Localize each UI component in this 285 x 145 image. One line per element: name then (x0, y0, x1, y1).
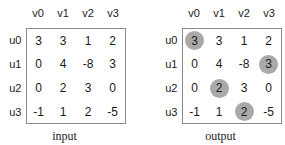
matrix-figure: v0 v1 v2 v3 u0 3 3 1 2 u1 0 4 -8 3 u2 0 … (0, 0, 285, 145)
cell-value: 0 (191, 58, 198, 70)
output-cell-u2-v2: 3 (232, 76, 257, 100)
input-cell-u3-v0: -1 (26, 100, 51, 124)
cell-value: 0 (35, 82, 42, 94)
input-cell-u3-v1: 1 (51, 100, 76, 124)
input-cell-u1-v1: 4 (51, 52, 76, 76)
column-header-v2: v2 (76, 4, 101, 22)
cell-value: 1 (60, 106, 67, 118)
cell-value: 0 (265, 82, 272, 94)
input-cell-u0-v2: 1 (76, 28, 101, 52)
output-cell-u3-v2: 2 (232, 100, 257, 124)
cell-value: 3 (241, 82, 248, 94)
column-header-v1: v1 (51, 4, 76, 22)
cell-value: 2 (60, 82, 67, 94)
column-header-v3: v3 (101, 4, 126, 22)
input-caption: input (52, 130, 77, 142)
input-cell-u0-v3: 2 (101, 28, 126, 52)
output-caption: output (205, 130, 236, 142)
cell-value: -8 (83, 58, 94, 70)
cell-value: -5 (107, 106, 118, 118)
corner-spacer (160, 4, 182, 22)
output-cell-u0-v0: 3 (182, 28, 207, 52)
cell-value: 3 (85, 82, 92, 94)
input-cell-u2-v2: 3 (76, 76, 101, 100)
cell-value: 3 (216, 35, 223, 47)
cell-value: -8 (239, 58, 250, 70)
cell-value: -1 (33, 106, 44, 118)
cell-value: 0 (35, 58, 42, 70)
row-label-u3: u3 (4, 100, 26, 124)
cell-value: 1 (216, 106, 223, 118)
column-header-v2: v2 (232, 4, 257, 22)
cell-value: 0 (191, 82, 198, 94)
column-header-v0: v0 (182, 4, 207, 22)
output-cell-u0-v1: 3 (207, 28, 232, 52)
output-cell-u1-v0: 0 (182, 52, 207, 76)
output-matrix-block: v0 v1 v2 v3 u0 3 3 1 2 u1 0 4 -8 3 u2 0 … (160, 4, 282, 142)
cell-value: 3 (35, 35, 42, 47)
cell-value: 3 (265, 58, 272, 70)
input-cell-u2-v1: 2 (51, 76, 76, 100)
column-header-v3: v3 (257, 4, 282, 22)
column-header-v0: v0 (26, 4, 51, 22)
input-cell-u1-v2: -8 (76, 52, 101, 76)
output-cell-u0-v3: 2 (257, 28, 282, 52)
output-cell-u3-v0: -1 (182, 100, 207, 124)
input-matrix-grid: v0 v1 v2 v3 u0 3 3 1 2 u1 0 4 -8 3 u2 0 … (4, 4, 126, 124)
output-cell-u3-v1: 1 (207, 100, 232, 124)
output-cell-u2-v3: 0 (257, 76, 282, 100)
output-matrix-grid: v0 v1 v2 v3 u0 3 3 1 2 u1 0 4 -8 3 u2 0 … (160, 4, 282, 124)
input-cell-u0-v0: 3 (26, 28, 51, 52)
cell-value: -5 (263, 106, 274, 118)
output-cell-u1-v1: 4 (207, 52, 232, 76)
row-label-u2: u2 (4, 76, 26, 100)
cell-value: -1 (189, 106, 200, 118)
input-matrix-block: v0 v1 v2 v3 u0 3 3 1 2 u1 0 4 -8 3 u2 0 … (4, 4, 126, 142)
input-cell-u1-v0: 0 (26, 52, 51, 76)
cell-value: 4 (60, 58, 67, 70)
cell-value: 2 (265, 35, 272, 47)
row-label-u0: u0 (160, 28, 182, 52)
input-cell-u3-v2: 2 (76, 100, 101, 124)
output-cell-u1-v2: -8 (232, 52, 257, 76)
cell-value: 1 (85, 35, 92, 47)
column-header-v1: v1 (207, 4, 232, 22)
cell-value: 4 (216, 58, 223, 70)
output-cell-u1-v3: 3 (257, 52, 282, 76)
row-label-u3: u3 (160, 100, 182, 124)
row-label-u0: u0 (4, 28, 26, 52)
output-cell-u0-v2: 1 (232, 28, 257, 52)
input-cell-u2-v0: 0 (26, 76, 51, 100)
input-cell-u2-v3: 0 (101, 76, 126, 100)
input-cell-u0-v1: 3 (51, 28, 76, 52)
output-cell-u3-v3: -5 (257, 100, 282, 124)
cell-value: 3 (60, 35, 67, 47)
cell-value: 2 (241, 106, 248, 118)
row-label-u1: u1 (4, 52, 26, 76)
corner-spacer (4, 4, 26, 22)
row-label-u2: u2 (160, 76, 182, 100)
cell-value: 1 (241, 35, 248, 47)
cell-value: 2 (85, 106, 92, 118)
output-cell-u2-v0: 0 (182, 76, 207, 100)
row-label-u1: u1 (160, 52, 182, 76)
input-cell-u1-v3: 3 (101, 52, 126, 76)
cell-value: 3 (109, 58, 116, 70)
input-cell-u3-v3: -5 (101, 100, 126, 124)
output-cell-u2-v1: 2 (207, 76, 232, 100)
cell-value: 2 (216, 82, 223, 94)
cell-value: 0 (109, 82, 116, 94)
cell-value: 2 (109, 35, 116, 47)
cell-value: 3 (191, 35, 198, 47)
